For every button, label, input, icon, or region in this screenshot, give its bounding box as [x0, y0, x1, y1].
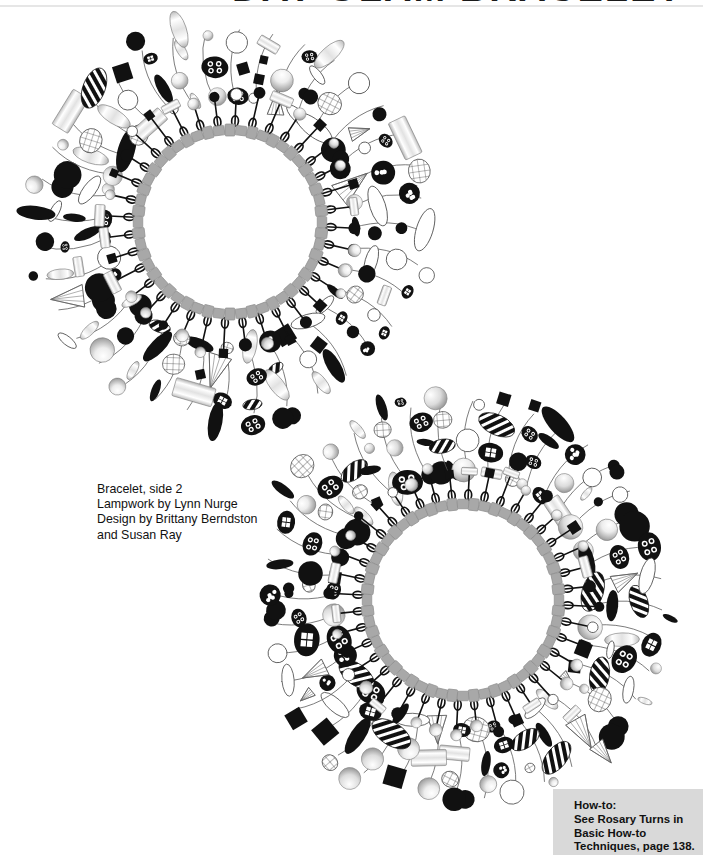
- bracelet-illustration-lower: [232, 392, 694, 812]
- how-to-box: How-to: See Rosary Turns in Basic How-to…: [553, 789, 703, 855]
- bracelet-illustration-upper: [5, 22, 455, 442]
- caption-line-3: Design by Brittany Berndston: [97, 512, 257, 527]
- how-to-line-2: Basic How-to: [574, 827, 695, 841]
- how-to-heading: How-to:: [574, 799, 695, 813]
- header-divider: [0, 5, 703, 7]
- caption-line-1: Bracelet, side 2: [97, 482, 257, 497]
- how-to-line-3: Techniques, page 138.: [574, 840, 695, 854]
- bracelet-caption: Bracelet, side 2 Lampwork by Lynn Nurge …: [97, 482, 257, 543]
- how-to-text: How-to: See Rosary Turns in Basic How-to…: [574, 799, 695, 854]
- page-canvas: DAY-GLAM BRACELET: [0, 0, 703, 855]
- caption-line-2: Lampwork by Lynn Nurge: [97, 497, 257, 512]
- how-to-line-1: See Rosary Turns in: [574, 813, 695, 827]
- caption-line-4: and Susan Ray: [97, 528, 257, 543]
